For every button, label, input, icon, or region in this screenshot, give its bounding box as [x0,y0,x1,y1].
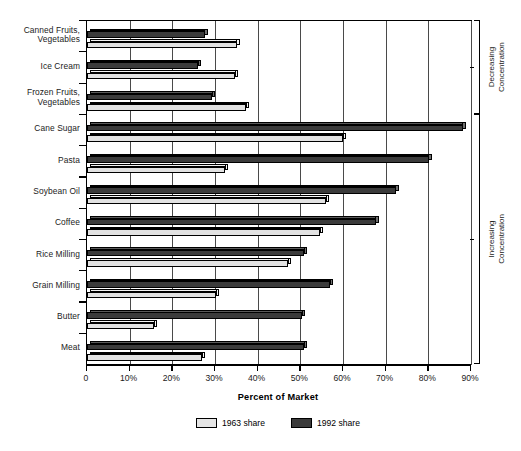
y-tick-1 [79,51,86,52]
category-label-wrap: Butter [0,312,80,322]
bar-facet [87,250,304,257]
bar-facet [375,216,378,222]
bar-1992-share-2 [87,91,215,100]
category-label-wrap: Frozen Fruits,Vegetables [0,88,80,107]
bar-facet [304,247,307,253]
bar-1992-share-4 [87,154,432,163]
x-tick-label-70%: 70% [365,373,405,383]
bar-facet [87,31,205,38]
gridline-90% [471,21,472,365]
bar-facet [395,185,398,191]
x-tick-label-20%: 20% [151,373,191,383]
x-tick-label-0: 0 [66,373,106,383]
bar-facet [343,133,346,139]
bar-facet [202,352,205,358]
x-axis-title: Percent of Market [86,392,470,402]
bracket-label-decreasing: DecreasingConcentration [487,20,506,114]
bar-1963-share-6 [87,227,323,236]
y-tick-7 [79,239,86,240]
bar-facet [462,122,465,128]
bracket-increasing [474,114,480,364]
bar-facet [428,154,431,160]
y-tick-4 [79,145,86,146]
bar-facet [87,125,463,132]
bar-facet [87,312,302,319]
bracket-center-tick [470,67,474,68]
category-label: Rice Milling [36,249,80,259]
category-label: Frozen Fruits,Vegetables [27,87,80,107]
bar-1992-share-3 [87,122,466,131]
y-tick-3 [79,114,86,115]
bar-facet [302,310,305,316]
bar-facet [288,258,291,264]
bar-facet [87,167,225,174]
bar-facet [304,341,307,347]
category-label-wrap: Canned Fruits,Vegetables [0,26,80,45]
bar-facet [330,279,333,285]
x-tick-label-10%: 10% [109,373,149,383]
plot-area [86,20,472,365]
category-label-wrap: Meat [0,343,80,353]
bar-facet [87,135,343,142]
bar-facet [216,289,219,295]
category-label-wrap: Coffee [0,218,80,228]
y-tick-2 [79,83,86,84]
y-tick-5 [79,176,86,177]
bar-1963-share-9 [87,320,157,329]
category-label: Coffee [55,217,80,227]
market-concentration-chart: Canned Fruits,VegetablesIce CreamFrozen … [0,0,521,451]
bar-facet [204,29,207,35]
bar-1963-share-5 [87,195,329,204]
bar-facet [212,91,215,97]
bar-facet [87,73,235,80]
x-tick-20% [171,365,172,371]
x-tick-0 [86,365,87,371]
bar-facet [87,42,237,49]
x-tick-label-50%: 50% [279,373,319,383]
bar-facet [326,195,329,201]
bar-1963-share-2 [87,102,249,111]
chart-legend: 1963 share 1992 share [86,418,470,428]
x-tick-40% [257,365,258,371]
x-tick-30% [214,365,215,371]
bar-facet [87,354,202,361]
x-tick-50% [299,365,300,371]
bar-1963-share-7 [87,258,291,267]
bar-facet [235,70,238,76]
category-axis-labels: Canned Fruits,VegetablesIce CreamFrozen … [0,20,80,364]
category-label-wrap: Grain Milling [0,281,80,291]
x-tick-label-90%: 90% [450,373,490,383]
x-tick-label-60%: 60% [322,373,362,383]
y-tick-6 [79,208,86,209]
bar-facet [87,292,216,299]
bar-facet [320,227,323,233]
legend-swatch-1963 [196,418,217,428]
x-tick-label-80%: 80% [407,373,447,383]
bar-facet [87,344,304,351]
bar-1963-share-1 [87,70,238,79]
bar-1992-share-6 [87,216,379,225]
bar-facet [87,260,288,267]
x-tick-70% [385,365,386,371]
legend-item-1992: 1992 share [291,418,360,428]
bar-1992-share-8 [87,279,333,288]
bar-1992-share-0 [87,29,208,38]
bar-1963-share-3 [87,133,346,142]
y-tick-8 [79,270,86,271]
category-label-wrap: Pasta [0,156,80,166]
bar-1963-share-0 [87,39,240,48]
category-label: Canned Fruits,Vegetables [24,25,80,45]
y-tick-0 [79,20,86,21]
bar-facet [87,229,320,236]
bar-facet [87,94,212,101]
bar-facet [87,187,396,194]
y-tick-10 [79,333,86,334]
category-label: Butter [57,311,80,321]
category-label: Pasta [58,155,80,165]
x-tick-label-30%: 30% [194,373,234,383]
legend-item-1963: 1963 share [196,418,265,428]
bar-1992-share-1 [87,60,201,69]
x-tick-label-40%: 40% [237,373,277,383]
legend-label-1963: 1963 share [222,418,265,428]
x-tick-60% [342,365,343,371]
